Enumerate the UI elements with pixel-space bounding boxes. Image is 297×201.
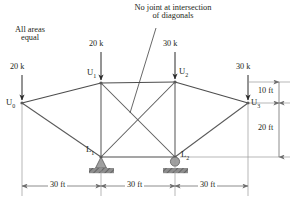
member-U2-U3 bbox=[175, 82, 248, 103]
vertical-dimension-group bbox=[180, 82, 290, 157]
joint-label-L2-sub: 2 bbox=[186, 155, 189, 161]
truss-members bbox=[22, 82, 248, 157]
joint-U2 bbox=[173, 80, 176, 83]
all-areas-equal-label: All areas equal bbox=[1, 26, 59, 43]
joint-label-U0: U0 bbox=[6, 98, 15, 109]
load-label-U3: 30 k bbox=[236, 63, 250, 71]
joint-label-U2-sub: 2 bbox=[185, 72, 188, 78]
support-pin-L1 bbox=[89, 157, 114, 173]
dim-label-span-1: 30 ft bbox=[48, 181, 67, 189]
joint-label-L1: L1 bbox=[86, 145, 94, 156]
pin-hatch-base bbox=[89, 168, 114, 173]
joint-label-U0-sub: 0 bbox=[12, 103, 15, 109]
joint-label-L1-sub: 1 bbox=[91, 150, 94, 156]
truss-joints bbox=[20, 80, 249, 158]
load-label-U0: 20 k bbox=[10, 63, 24, 71]
load-label-U2: 30 k bbox=[163, 40, 177, 48]
joint-U1 bbox=[99, 81, 102, 84]
load-label-U1: 20 k bbox=[89, 40, 103, 48]
joint-label-U1-sub: 1 bbox=[93, 73, 96, 79]
joint-U0 bbox=[20, 101, 23, 104]
joint-label-L2: L2 bbox=[181, 150, 189, 161]
note-text: No joint at intersection of diagonals bbox=[118, 4, 228, 21]
note-line-2: of diagonals bbox=[152, 11, 193, 20]
member-U0-U1 bbox=[22, 83, 101, 103]
joint-label-U1: U1 bbox=[87, 68, 96, 79]
joint-label-U2: U2 bbox=[179, 67, 188, 78]
dim-label-span-3: 30 ft bbox=[198, 181, 217, 189]
areas-line-2: equal bbox=[21, 33, 39, 42]
note-leader-line bbox=[130, 28, 156, 113]
dim-label-10ft: 10 ft bbox=[258, 87, 273, 95]
joint-label-U3-sub: 3 bbox=[257, 103, 260, 109]
dim-label-20ft: 20 ft bbox=[258, 124, 273, 132]
roller-hatch-base bbox=[163, 168, 188, 173]
member-U1-U2 bbox=[101, 82, 175, 83]
dim-label-span-2: 30 ft bbox=[125, 181, 144, 189]
joint-label-U3: U3 bbox=[251, 98, 260, 109]
